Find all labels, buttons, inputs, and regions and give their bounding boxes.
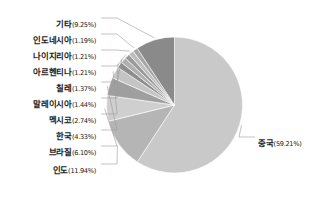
pie-chart-canvas [0,0,313,205]
pie-label-china-name: 중국 [258,138,274,148]
leader-line [239,125,255,137]
leader-line [101,145,117,164]
leader-line [101,18,154,38]
leader-line [101,50,130,51]
leader-line [101,34,134,48]
pie-chart-figure: 기타(9.25%) 인도네시아(1.19%) 나이지리아(1.21%) 아르헨티… [0,0,313,205]
pie-label-china-percent: (59.21%) [274,140,302,148]
pie-label-china: 중국(59.21%) [258,133,302,149]
pie-slice-group [106,37,242,173]
